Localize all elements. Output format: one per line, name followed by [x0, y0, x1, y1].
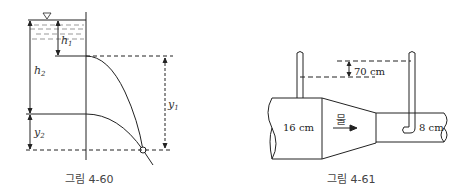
label-y2: y2 — [33, 126, 45, 140]
free-surface-icon — [43, 13, 51, 19]
label-y1: y1 — [167, 98, 179, 112]
caption-4-60: 그림 4-60 — [65, 173, 113, 186]
large-diameter-label: 16 cm — [283, 122, 315, 133]
piezometer-left — [297, 52, 303, 99]
small-diameter-label: 8 cm — [419, 122, 444, 133]
upper-jet — [86, 56, 143, 150]
lower-jet — [86, 114, 143, 150]
pitot-tube — [403, 52, 416, 134]
caption-4-61: 그림 4-61 — [327, 173, 375, 186]
large-pipe-break — [268, 98, 276, 159]
label-h1: h1 — [61, 34, 73, 48]
label-h2: h2 — [34, 64, 46, 78]
figure-4-60 — [26, 12, 173, 165]
diagram-canvas: h1 h2 y2 y1 그림 4-60 70 cm 16 cm 8 cm — [0, 0, 472, 196]
head-difference-label: 70 cm — [354, 66, 386, 77]
water-hatching — [30, 25, 84, 39]
flow-label: 물 — [336, 114, 346, 127]
figure-4-60-labels: h1 h2 y2 y1 그림 4-60 — [33, 34, 179, 186]
figure-4-61-labels: 70 cm 16 cm 8 cm 물 그림 4-61 — [283, 66, 444, 186]
